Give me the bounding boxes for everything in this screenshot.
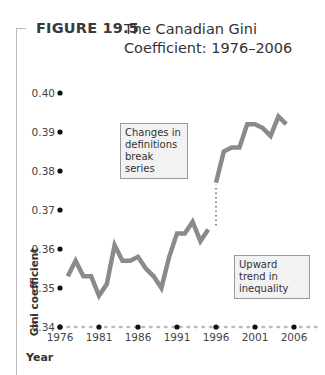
x-tick-label: 1981 [86,331,113,343]
x-tick-dot [96,324,101,329]
x-tick-label: 1986 [125,331,152,343]
x-tick-label: 2001 [242,331,269,343]
x-tick-label: 1976 [47,331,74,343]
y-tick-dot [57,207,62,212]
y-tick-dot [57,168,62,173]
gini-line-chart: 0.340.350.360.370.380.390.40197619811986… [0,0,325,375]
y-tick-label: 0.40 [32,87,55,99]
y-axis-label: Gini coefficient [28,248,40,337]
x-tick-label: 1991 [164,331,191,343]
y-tick-label: 0.38 [32,165,55,177]
x-tick-dot [57,324,62,329]
x-tick-dot [291,324,296,329]
x-tick-label: 2006 [281,331,308,343]
y-tick-dot [57,90,62,95]
y-tick-label: 0.39 [32,126,55,138]
y-tick-dot [57,129,62,134]
y-tick-dot [57,285,62,290]
series-line-2 [216,116,286,182]
x-tick-dot [252,324,257,329]
x-tick-label: 1996 [203,331,230,343]
x-tick-dot [174,324,179,329]
annotation-upward-trend: Upward trend in inequality [234,255,310,299]
y-tick-dot [57,246,62,251]
annotation-break-series: Changes in definitions break series [120,123,188,179]
y-tick-label: 0.37 [32,204,55,216]
series-line-1 [68,222,208,296]
x-tick-dot [213,324,218,329]
x-tick-dot [135,324,140,329]
x-axis-label: Year [26,351,53,364]
